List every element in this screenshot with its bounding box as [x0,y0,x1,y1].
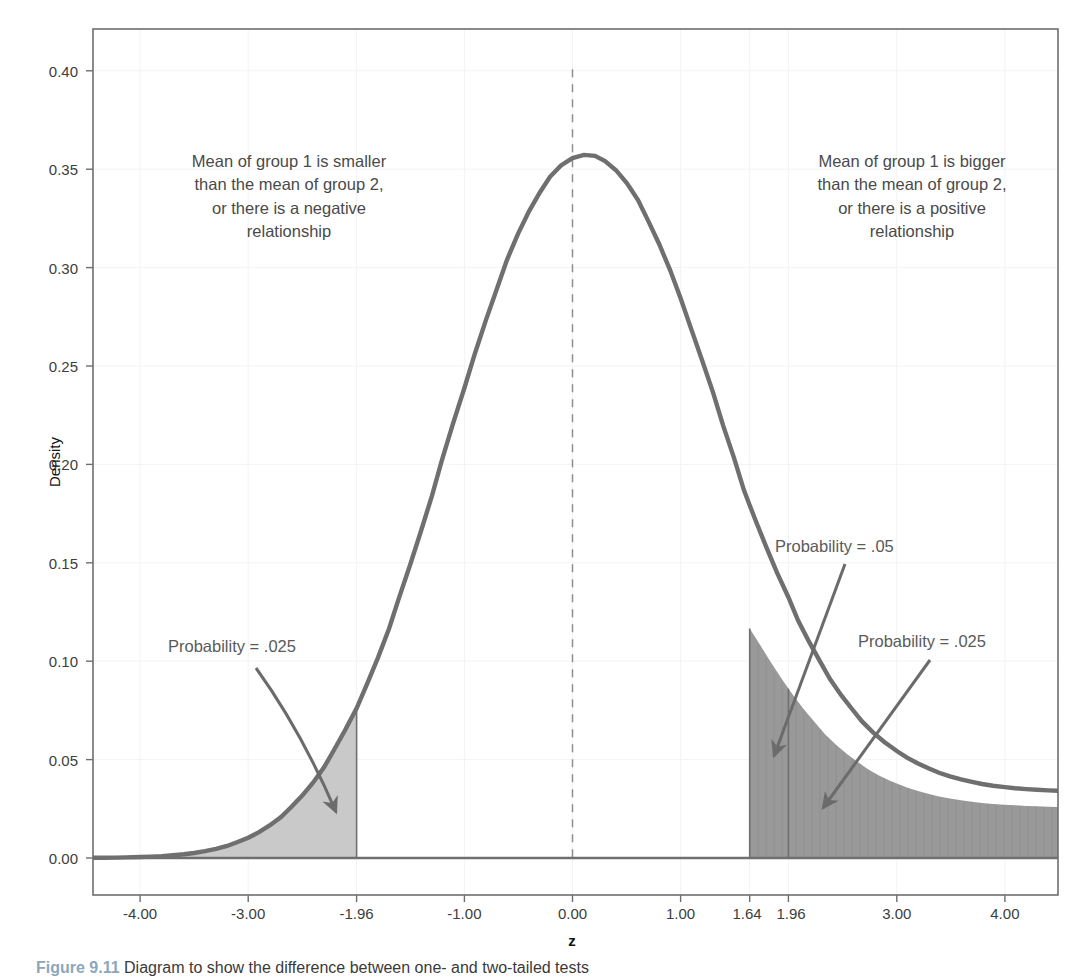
y-tick-label: 0.40 [18,62,78,79]
annotation-probability-right-025: Probability = .025 [858,632,986,651]
x-tick-label: 4.00 [965,905,1045,922]
annotation-probability-left: Probability = .025 [168,637,296,656]
y-tick-label: 0.35 [18,161,78,178]
y-tick-label: 0.00 [18,850,78,867]
normal-distribution-plot [0,0,1088,979]
annotation-left-note: Mean of group 1 is smaller than the mean… [139,150,439,244]
figure-container: 0.00 0.05 0.10 0.15 0.20 0.25 0.30 0.35 … [0,0,1088,979]
x-tick-label: -1.96 [317,905,397,922]
x-tick-label: 0.00 [533,905,613,922]
x-tick-label: -1.00 [424,905,504,922]
y-tick-label: 0.25 [18,358,78,375]
x-axis-ticks [140,895,1005,902]
y-tick-label: 0.05 [18,751,78,768]
x-tick-label: -4.00 [100,905,180,922]
x-tick-label: 1.96 [751,905,831,922]
figure-caption: Figure 9.11 Diagram to show the differen… [36,959,1076,977]
y-tick-label: 0.15 [18,554,78,571]
annotation-probability-right-05: Probability = .05 [775,537,894,556]
y-tick-label: 0.10 [18,653,78,670]
y-tick-label: 0.30 [18,259,78,276]
x-tick-label: 3.00 [857,905,937,922]
y-axis-title: Density [46,402,63,522]
x-tick-label: -3.00 [208,905,288,922]
annotation-right-note: Mean of group 1 is bigger than the mean … [762,150,1062,244]
y-axis-ticks [86,71,93,858]
figure-number: Figure 9.11 [36,959,120,976]
x-axis-title: z [512,932,632,949]
figure-caption-text: Diagram to show the difference between o… [124,959,589,976]
